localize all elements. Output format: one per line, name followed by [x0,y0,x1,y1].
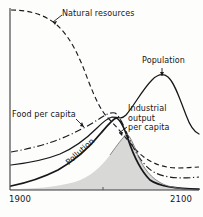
chart-plot-area [0,0,203,217]
industrial-output-line-2: output [128,114,169,124]
label-food-per-capita: Food per capita [12,110,76,120]
industrial-output-line-1: Industrial [128,104,169,114]
industrial-output-line-3: per capita [128,123,169,133]
pollution-area [10,134,199,190]
natural-resources-curve [11,10,199,168]
label-population: Population [142,56,185,66]
population-curve [11,75,199,165]
label-industrial-output-per-capita: Industrial output per capita [128,104,169,133]
food-per-capita-arrowhead [80,122,84,127]
label-natural-resources: Natural resources [62,9,135,19]
x-axis-end-label: 2100 [170,195,192,205]
natural-resources-pointer [53,15,62,22]
world3-standard-run-chart: Natural resources Population Food per ca… [0,0,203,217]
x-axis-start-label: 1900 [9,195,31,205]
